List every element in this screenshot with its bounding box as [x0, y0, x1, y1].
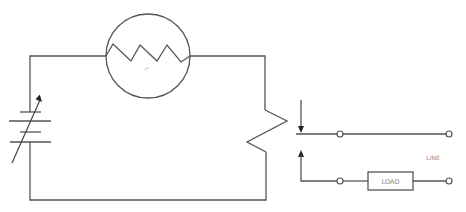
load-component: LOAD [368, 172, 452, 190]
circuit-diagram: r° LOAD LINE [0, 0, 466, 212]
line-label: LINE [426, 154, 440, 161]
terminal-3 [337, 178, 343, 184]
main-circuit-loop [30, 56, 266, 200]
down-arrow-icon [298, 126, 304, 133]
load-label: LOAD [382, 178, 400, 186]
arrowhead-icon [36, 94, 45, 102]
heater-label: r° [145, 66, 150, 72]
terminal-2 [446, 131, 452, 137]
heater-resistor-icon [106, 44, 190, 62]
heater-circle [106, 14, 190, 98]
heater-element: r° [106, 14, 190, 98]
lower-contact-wire [301, 155, 337, 181]
bimetal-zigzag-icon [247, 110, 287, 152]
terminal-1 [337, 131, 343, 137]
terminal-4 [446, 178, 452, 184]
